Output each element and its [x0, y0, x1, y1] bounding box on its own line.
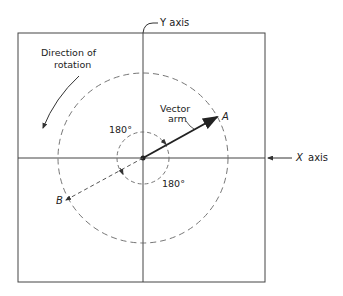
rotating-vector-diagram: Y axis X axis Direction of rotation Vect… — [0, 0, 343, 296]
point-a-label: A — [221, 111, 229, 122]
rotation-label-line2: rotation — [54, 59, 91, 70]
y-axis-leader — [143, 23, 158, 33]
vector-arm-leader — [186, 121, 194, 129]
angle-top-label: 180° — [109, 124, 132, 135]
point-b-label: B — [56, 195, 63, 206]
x-axis-word: axis — [308, 152, 328, 163]
vector-arm-b — [66, 158, 143, 200]
rotation-direction-arrow — [43, 76, 79, 128]
rotation-label-line1: Direction of — [41, 47, 97, 58]
angle-bottom-label: 180° — [162, 178, 185, 189]
vector-label-line2: arm — [168, 113, 187, 124]
angle-arrow-top — [162, 140, 166, 144]
y-axis-label: Y axis — [159, 17, 189, 28]
x-axis-letter: X — [295, 152, 304, 163]
